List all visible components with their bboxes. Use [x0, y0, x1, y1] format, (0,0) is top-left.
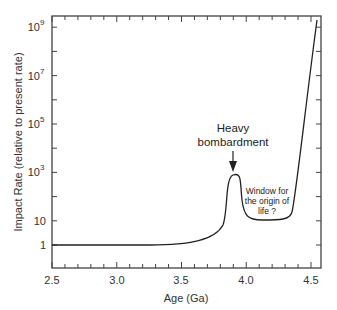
y-tick-exponent: 5 [40, 115, 45, 124]
window-origin-life-label: Window for [246, 186, 289, 196]
y-tick-label: 10 [28, 118, 40, 130]
window-origin-life-label: life ? [258, 206, 276, 216]
impact-rate-chart: 2.5 3.0 3.5 4.0 4.5 1 10 10 3 10 5 10 7 … [0, 0, 337, 310]
x-axis-ticks [52, 16, 311, 268]
y-tick-exponent: 3 [40, 163, 45, 172]
plot-frame [52, 16, 321, 268]
x-tick-label: 3.0 [109, 274, 124, 286]
y-tick-label: 10 [28, 70, 40, 82]
y-tick-label: 10 [28, 21, 40, 33]
y-axis-ticks [52, 27, 321, 245]
y-tick-label: 1 [40, 239, 46, 251]
y-axis-title: Impact Rate (relative to present rate) [12, 52, 24, 231]
y-tick-exponent: 9 [40, 18, 45, 27]
y-tick-label: 10 [34, 215, 46, 227]
x-tick-label: 4.0 [238, 274, 253, 286]
window-origin-life-label: the origin of [245, 196, 290, 206]
heavy-bombardment-label: Heavy [217, 122, 250, 134]
y-tick-label: 10 [28, 166, 40, 178]
x-tick-label: 3.5 [173, 274, 188, 286]
x-tick-label: 2.5 [44, 274, 59, 286]
x-tick-label: 4.5 [303, 274, 318, 286]
arrow-down-icon [229, 151, 237, 172]
heavy-bombardment-label: bombardment [198, 136, 270, 148]
impact-rate-curve [52, 20, 317, 245]
y-tick-exponent: 7 [40, 67, 45, 76]
x-axis-title: Age (Ga) [164, 292, 209, 304]
